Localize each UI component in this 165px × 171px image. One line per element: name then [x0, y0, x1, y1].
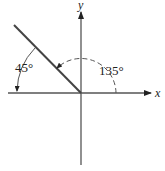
x-axis-label: x [154, 86, 161, 100]
terminal-ray [14, 25, 81, 93]
angle-diagram: x y 45° 135° [0, 0, 165, 171]
angle-label-135: 135° [99, 63, 124, 78]
angle-label-45: 45° [15, 60, 33, 75]
y-axis-label: y [77, 0, 84, 12]
